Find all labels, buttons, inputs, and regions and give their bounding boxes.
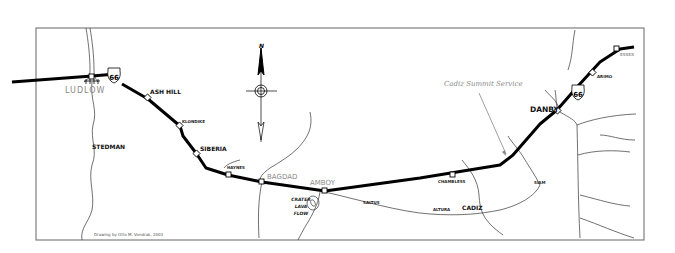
us-66-shield-danby-icon: 66 (572, 85, 585, 100)
town-bagdad: BAGDAD (267, 174, 297, 181)
town-klondike: KLONDIKE (182, 120, 205, 124)
crater-line-3: FLOW (287, 211, 315, 218)
town-siberia: SIBERIA (200, 146, 227, 152)
town-essex: ESSEX (620, 53, 634, 57)
secondary-roads (82, 28, 636, 240)
drawing-credit: Drawing by Otto M. Vondrak, 2003 (94, 233, 163, 237)
town-cadiz: CADIZ (462, 205, 483, 211)
town-danby: DANBY (530, 106, 559, 114)
compass-north-label: N (259, 43, 264, 49)
town-ash-hill: ASH HILL (150, 89, 181, 95)
us-66-shield-ludlow-icon: 66 (108, 68, 121, 83)
crater-line-1: CRATER (287, 197, 315, 204)
crater-lava-flow-label: CRATER LAVA FLOW (287, 197, 315, 217)
town-siam: SIAM (534, 181, 545, 185)
crater-line-2: LAVA (287, 204, 315, 211)
service-pointer (479, 93, 506, 154)
map-frame (36, 28, 644, 240)
cadiz-summit-service-label: Cadiz Summit Service (444, 81, 523, 88)
town-chambless: CHAMBLESS (438, 180, 465, 184)
town-altura: ALTURA (433, 208, 450, 212)
route-66-line (12, 47, 634, 191)
town-stedman: STEDMAN (92, 144, 125, 150)
town-arimo: ARIMO (597, 75, 612, 79)
svg-text:66: 66 (109, 74, 119, 82)
town-amboy: AMBOY (310, 180, 335, 187)
town-ludlow: LUDLOW (65, 87, 105, 95)
compass-rose-icon (246, 48, 277, 142)
pointer-arrowhead-icon (502, 150, 506, 156)
town-saltus: SALTUS (363, 201, 380, 205)
station-markers (89, 46, 619, 193)
route66-map: 66 66 (0, 0, 675, 253)
svg-text:66: 66 (573, 91, 583, 99)
town-haynes: HAYNES (227, 166, 245, 170)
